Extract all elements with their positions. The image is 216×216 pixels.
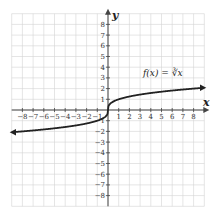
svg-text:5: 5	[159, 113, 163, 121]
axes	[12, 9, 210, 207]
svg-text:−8: −8	[17, 113, 27, 121]
svg-text:−6: −6	[95, 171, 106, 179]
svg-text:3: 3	[138, 113, 142, 121]
svg-text:2: 2	[127, 113, 131, 121]
svg-text:−4: −4	[60, 113, 71, 121]
svg-text:−7: −7	[28, 113, 38, 121]
cube-root-graph: −8−7−6−5−4−3−2−11234567887654321−1−2−3−4…	[0, 0, 216, 216]
svg-text:−2: −2	[81, 113, 91, 121]
svg-text:2: 2	[101, 85, 105, 93]
svg-text:−8: −8	[95, 192, 105, 200]
svg-text:5: 5	[101, 53, 105, 61]
svg-text:1: 1	[101, 96, 105, 104]
svg-text:−4: −4	[95, 149, 106, 157]
svg-text:1: 1	[116, 113, 120, 121]
svg-text:3: 3	[101, 74, 105, 82]
svg-text:−2: −2	[95, 128, 105, 136]
svg-text:8: 8	[191, 113, 195, 121]
svg-text:6: 6	[101, 42, 106, 50]
svg-text:4: 4	[101, 64, 106, 72]
x-axis-label: x	[202, 96, 210, 109]
svg-text:−3: −3	[71, 113, 81, 121]
svg-text:−3: −3	[95, 139, 105, 147]
svg-text:−7: −7	[95, 181, 105, 189]
svg-text:8: 8	[101, 21, 105, 29]
svg-text:6: 6	[170, 113, 175, 121]
svg-text:−5: −5	[49, 113, 59, 121]
svg-text:4: 4	[149, 113, 154, 121]
function-label: f(x) = ∛x	[142, 67, 183, 78]
chart-container: −8−7−6−5−4−3−2−11234567887654321−1−2−3−4…	[0, 0, 216, 216]
svg-text:−5: −5	[95, 160, 105, 168]
svg-text:7: 7	[181, 113, 185, 121]
svg-text:7: 7	[101, 32, 105, 40]
svg-text:−6: −6	[39, 113, 50, 121]
